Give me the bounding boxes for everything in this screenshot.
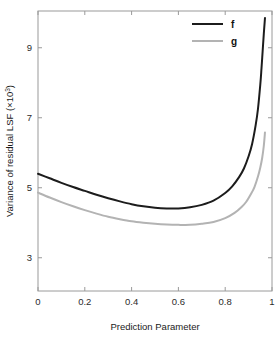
x-tick-label: 0.6 xyxy=(172,296,185,307)
legend-label-g: g xyxy=(231,36,237,47)
x-tick-label: 0.4 xyxy=(125,296,138,307)
x-axis-title: Prediction Parameter xyxy=(110,321,199,332)
chart-background xyxy=(0,0,279,339)
chart-figure: 00.20.40.60.81 3579 fg Prediction Parame… xyxy=(0,0,279,339)
y-tick-label: 3 xyxy=(27,252,32,263)
x-tick-label: 1 xyxy=(269,296,274,307)
y-axis-title-close: ) xyxy=(4,85,15,88)
y-tick-label: 7 xyxy=(27,112,32,123)
x-tick-label: 0 xyxy=(35,296,40,307)
line-chart: 00.20.40.60.81 3579 fg Prediction Parame… xyxy=(0,0,279,339)
y-tick-label: 9 xyxy=(27,42,32,53)
y-axis-title-base: Variance of residual LSF (×10 xyxy=(4,92,15,217)
y-axis-title: Variance of residual LSF (×103) xyxy=(4,85,15,217)
x-tick-label: 0.2 xyxy=(78,296,91,307)
y-tick-label: 5 xyxy=(27,182,32,193)
x-tick-label: 0.8 xyxy=(219,296,232,307)
